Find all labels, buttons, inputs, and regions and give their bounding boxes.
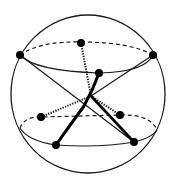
node-lower-back-left — [37, 113, 45, 121]
node-lower-front-right — [130, 138, 138, 146]
node-lower-back-right — [116, 111, 124, 119]
edge-upper-back-center — [81, 43, 91, 96]
upper-ring-back — [20, 42, 153, 55]
nodes — [16, 39, 157, 149]
sphere-diagram: Two tetrahedra inscribed in a sphere (st… — [0, 0, 173, 181]
node-upper-left — [16, 51, 24, 59]
diagram-canvas — [0, 0, 173, 181]
edge-upper-left-lower-front-right — [20, 55, 134, 142]
edge-center-lower-front-right-thick — [91, 96, 134, 142]
node-upper-right — [149, 51, 157, 59]
node-upper-front — [95, 69, 103, 77]
edge-upper-front-lower-front-left — [56, 73, 99, 145]
node-lower-front-left — [52, 141, 60, 149]
sphere-outline — [11, 15, 165, 173]
node-upper-back — [77, 39, 85, 47]
